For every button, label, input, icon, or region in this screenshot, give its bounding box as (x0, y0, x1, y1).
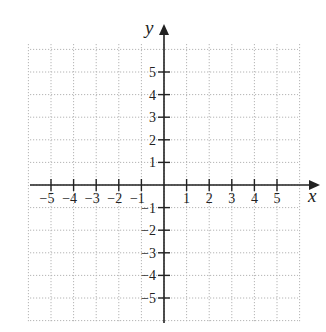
y-tick-label: −4 (141, 268, 156, 283)
y-tick-label: −1 (141, 201, 156, 216)
x-tick-label: 3 (228, 191, 235, 206)
y-tick-label: −5 (141, 291, 156, 306)
x-tick-label: 1 (183, 191, 190, 206)
x-tick-label: −4 (62, 191, 77, 206)
x-axis-label: x (307, 185, 317, 206)
y-tick-label: 2 (149, 133, 156, 148)
x-tick-label: 2 (206, 191, 213, 206)
y-tick-label: 4 (149, 88, 156, 103)
y-axis-label: y (143, 17, 154, 38)
y-tick-label: −2 (141, 223, 156, 238)
y-axis-arrow-icon (159, 24, 169, 35)
x-tick-label: −3 (85, 191, 100, 206)
coordinate-plane: −5−4−3−2−11234554321−1−2−3−4−5 x y (0, 0, 326, 332)
y-tick-label: 5 (149, 65, 156, 80)
y-tick-label: −3 (141, 246, 156, 261)
x-tick-label: 4 (251, 191, 258, 206)
x-tick-label: 5 (274, 191, 281, 206)
y-tick-label: 3 (149, 110, 156, 125)
x-tick-label: −2 (107, 191, 122, 206)
y-tick-label: 1 (149, 155, 156, 170)
x-tick-label: −5 (40, 191, 55, 206)
